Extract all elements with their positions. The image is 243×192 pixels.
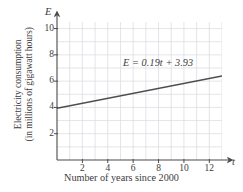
x-tick-labels: 24681012 [0, 0, 243, 192]
y-axis-variable: E [45, 6, 51, 17]
chart-figure: (in millions of gigawatt hours) Electric… [0, 0, 243, 192]
equation-annotation: E = 0.19t + 3.93 [123, 57, 193, 68]
x-axis-variable: t [232, 156, 235, 167]
x-axis-title: Number of years since 2000 [0, 172, 243, 183]
